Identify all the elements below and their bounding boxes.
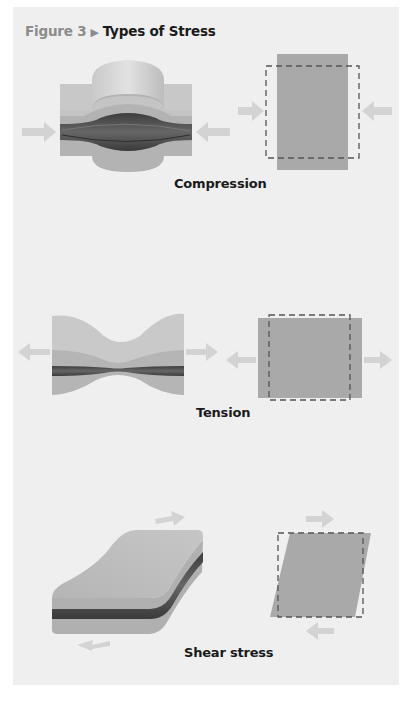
arrow-right-icon: [186, 343, 218, 361]
arrow-left-icon: [18, 343, 50, 361]
compression-block-illustration: [60, 60, 192, 172]
caption-tension: Tension: [196, 405, 250, 420]
compression-square-diagram: [238, 54, 392, 170]
arrow-right-icon: [22, 122, 56, 142]
tension-block-illustration: [52, 314, 184, 395]
arrow-left-icon: [77, 640, 110, 651]
arrow-left-icon: [196, 122, 230, 142]
shear-square-diagram: [270, 510, 371, 640]
arrow-left-icon: [306, 622, 334, 640]
arrow-right-icon: [306, 510, 334, 528]
caption-shear-stress: Shear stress: [184, 645, 273, 660]
tension-square-diagram: [226, 315, 392, 400]
caption-compression: Compression: [174, 176, 266, 191]
shear-block-illustration: [52, 530, 203, 634]
arrow-right-icon: [155, 511, 185, 526]
arrow-right-icon: [238, 101, 264, 121]
arrow-left-icon: [226, 351, 256, 369]
arrow-left-icon: [362, 101, 392, 121]
stress-diagram: [0, 0, 407, 701]
arrow-right-icon: [364, 351, 392, 369]
